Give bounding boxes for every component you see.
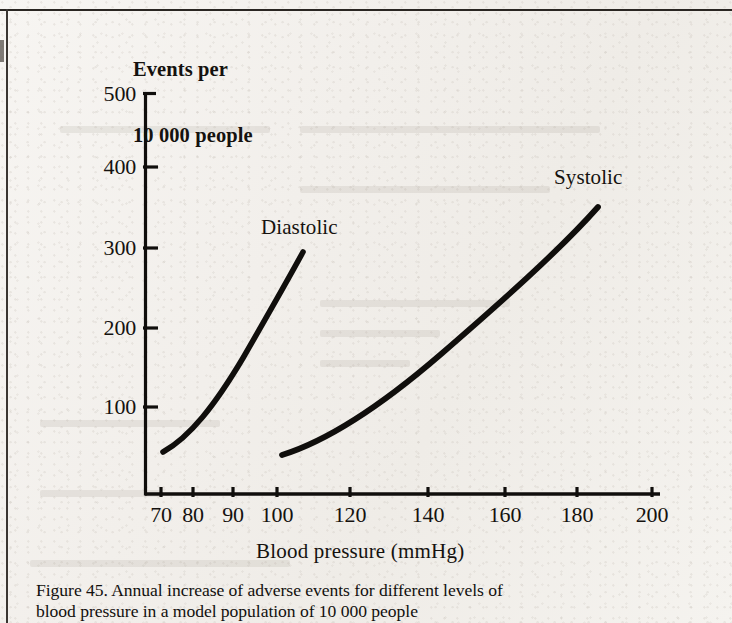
x-tick-label-180: 180: [545, 503, 609, 526]
series-curve-diastolic: [163, 252, 303, 452]
page-canvas: Events per 10 000 people: [0, 0, 732, 623]
series-label-systolic: Systolic: [554, 166, 622, 188]
y-tick-label-500: 500: [78, 82, 136, 105]
y-tick-label-200: 200: [78, 316, 136, 339]
y-tick-label-300: 300: [78, 236, 136, 259]
x-axis-title: Blood pressure (mmHg): [256, 540, 464, 562]
figure-caption-line1: Figure 45. Annual increase of adverse ev…: [36, 580, 696, 601]
figure-45: Events per 10 000 people: [0, 0, 732, 623]
x-tick-label-200: 200: [620, 503, 684, 526]
figure-caption-line2: blood pressure in a model population of …: [36, 601, 696, 622]
figure-caption: Figure 45. Annual increase of adverse ev…: [36, 580, 696, 622]
series-curve-systolic: [282, 207, 598, 455]
x-tick-label-140: 140: [396, 503, 460, 526]
y-tick-label-400: 400: [78, 155, 136, 178]
y-tick-label-100: 100: [78, 395, 136, 418]
x-tick-label-160: 160: [473, 503, 537, 526]
series-label-diastolic: Diastolic: [261, 216, 338, 238]
x-tick-label-100: 100: [245, 503, 309, 526]
x-tick-label-120: 120: [318, 503, 382, 526]
